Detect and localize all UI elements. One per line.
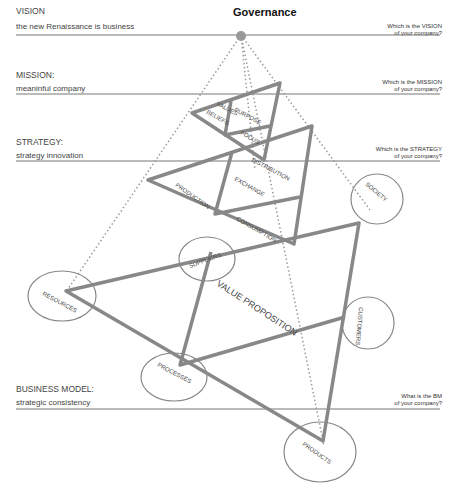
label-distribution: DISTRIBUTION <box>251 157 291 182</box>
label-exchange: EXCHANGE <box>234 176 266 198</box>
resources-circle <box>28 271 96 321</box>
label-production: PRODUCTION <box>174 182 210 210</box>
label-consumption: CONSUMPTION <box>236 216 278 244</box>
label-purpose: PURPOSE <box>234 107 263 126</box>
customers-circle <box>342 297 394 349</box>
strategy-triangle <box>148 126 312 244</box>
label-value-proposition: VALUE PROPOSITION <box>215 278 299 338</box>
society-circle <box>351 174 403 224</box>
circles <box>28 174 403 482</box>
pyramid-diagram: VALUES BELIEFS PURPOSE FOCUS DISTRIBUTIO… <box>0 0 452 486</box>
label-focus: FOCUS <box>240 130 261 146</box>
apex-node <box>236 31 246 41</box>
mission-triangle <box>192 83 280 160</box>
